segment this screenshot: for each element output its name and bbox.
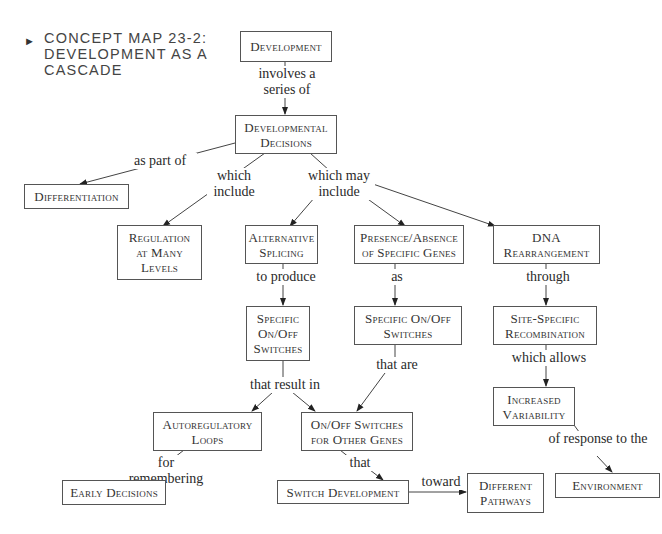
link-label-which-allows: which allows [506, 350, 592, 366]
node-dna-rearrangement: DNA Rearrangement [493, 225, 600, 264]
node-switch-development: Switch Development [277, 480, 409, 504]
node-different-pathways: Different Pathways [467, 473, 544, 513]
node-alternative-splicing: Alternative Splicing [245, 225, 318, 264]
node-developmental-decisions: Developmental Decisions [235, 115, 337, 154]
link-label-through: through [516, 269, 580, 285]
link-label-which-may-include: which may include [303, 168, 375, 200]
link-label-to-produce: to produce [250, 269, 322, 285]
node-specific-switches-left: Specific On/Off Switches [246, 306, 310, 361]
node-switches-for-other-genes: On/Off Switches for Other Genes [301, 412, 413, 451]
node-environment: Environment [555, 473, 660, 498]
node-autoregulatory-loops: Autoregulatory Loops [153, 412, 262, 451]
node-development: Development [240, 31, 332, 62]
node-regulation-at-many-levels: Regulation at Many Levels [117, 225, 202, 280]
node-presence-absence-genes: Presence/Absence of Specific Genes [354, 225, 464, 264]
node-specific-switches-middle: Specific On/Off Switches [354, 306, 462, 345]
node-site-specific-recombination: Site-Specific Recombination [493, 306, 597, 345]
link-label-toward: toward [416, 474, 466, 490]
link-label-that-result-in: that result in [237, 377, 333, 393]
node-increased-variability: Increased Variability [493, 387, 575, 426]
link-label-as-part-of: as part of [123, 153, 197, 169]
link-label-that: that [340, 455, 380, 471]
node-early-decisions: Early Decisions [62, 480, 166, 505]
link-label-which-include: which include [207, 168, 261, 200]
link-label-that-are: that are [366, 357, 428, 373]
link-label-of-response: of response to the [536, 431, 660, 447]
link-label-as: as [383, 269, 411, 285]
connector-lines [0, 0, 662, 534]
link-label-involves: involves a series of [254, 66, 320, 98]
node-differentiation: Differentiation [24, 184, 129, 209]
